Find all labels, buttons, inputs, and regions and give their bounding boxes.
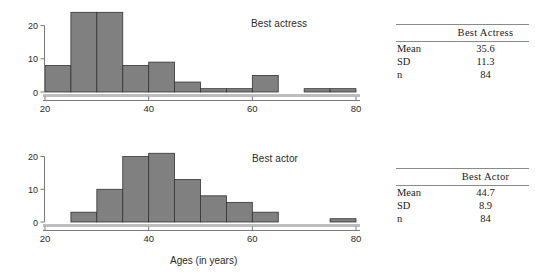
y-tick-label: 0: [33, 88, 38, 98]
histogram-bar: [226, 202, 252, 222]
histogram-bar: [252, 212, 278, 222]
table-header-label: Best Actor: [442, 169, 529, 186]
figure-container: 0102020406080 Best actress 0102020406080…: [0, 0, 535, 276]
best-actress-plot: 0102020406080: [0, 0, 380, 118]
histogram-bar: [97, 189, 123, 222]
histogram-bar: [149, 62, 175, 92]
stat-label: Mean: [396, 186, 442, 199]
histogram-bar: [330, 89, 356, 92]
x-tick-label: 40: [143, 103, 154, 114]
table-header-row: Best Actor: [396, 169, 529, 186]
best-actress-title: Best actress: [251, 18, 307, 29]
y-tick-label: 0: [33, 218, 38, 228]
best-actor-chart: 0102020406080 Best actor Ages (in years): [0, 133, 380, 276]
histogram-bar: [123, 65, 149, 92]
x-tick-label: 60: [247, 233, 258, 244]
histogram-bar: [201, 89, 227, 92]
histogram-bar: [226, 89, 252, 92]
stat-value: 84: [442, 212, 529, 225]
histogram-bar: [97, 12, 123, 92]
x-tick-label: 60: [247, 103, 258, 114]
x-tick-label: 80: [351, 233, 362, 244]
best-actor-title: Best actor: [252, 153, 298, 164]
table-header-blank: [396, 25, 442, 42]
stat-label: SD: [396, 199, 442, 212]
best-actress-chart: 0102020406080 Best actress: [0, 0, 380, 118]
table-row: n 84: [396, 68, 529, 81]
best-actress-stats-table: Best Actress Mean 35.6 SD 11.3 n 84: [396, 24, 529, 81]
histogram-bar: [45, 65, 71, 92]
x-tick-label: 40: [143, 233, 154, 244]
stat-value: 11.3: [442, 55, 529, 68]
stat-value: 8.9: [442, 199, 529, 212]
stat-value: 35.6: [442, 42, 529, 55]
stat-label: n: [396, 68, 442, 81]
histogram-bar: [175, 179, 201, 222]
stat-label: SD: [396, 55, 442, 68]
histogram-bar: [201, 196, 227, 222]
stat-label: Mean: [396, 42, 442, 55]
x-tick-label: 80: [351, 103, 362, 114]
x-tick-label: 20: [40, 103, 51, 114]
stat-value: 84: [442, 68, 529, 81]
table-header-label: Best Actress: [442, 25, 529, 42]
table-header-blank: [396, 169, 442, 186]
table-header-row: Best Actress: [396, 25, 529, 42]
histogram-bar: [252, 75, 278, 92]
histogram-bar: [71, 212, 97, 222]
best-actor-stats-table: Best Actor Mean 44.7 SD 8.9 n 84: [396, 168, 529, 225]
table-row: Mean 44.7: [396, 186, 529, 199]
histogram-bar: [304, 89, 330, 92]
histogram-bar: [330, 219, 356, 222]
y-tick-label: 20: [28, 21, 38, 31]
x-axis-label: Ages (in years): [170, 255, 237, 266]
y-tick-label: 10: [28, 54, 38, 64]
table-row: n 84: [396, 212, 529, 225]
table-row: SD 8.9: [396, 199, 529, 212]
stat-label: n: [396, 212, 442, 225]
x-tick-label: 20: [40, 233, 51, 244]
best-actor-plot: 0102020406080: [0, 133, 380, 251]
histogram-bar: [149, 153, 175, 222]
histogram-bar: [71, 12, 97, 92]
y-tick-label: 10: [28, 185, 38, 195]
stat-value: 44.7: [442, 186, 529, 199]
table-row: SD 11.3: [396, 55, 529, 68]
y-tick-label: 20: [28, 152, 38, 162]
table-row: Mean 35.6: [396, 42, 529, 55]
histogram-bar: [123, 157, 149, 222]
histogram-bar: [175, 82, 201, 92]
